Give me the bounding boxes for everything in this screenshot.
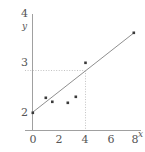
scatter-chart: 4 3 2 y 0 2 4 6 8 x <box>0 0 145 152</box>
data-point <box>67 102 70 105</box>
data-point <box>75 96 78 99</box>
x-axis-label: x <box>138 130 143 139</box>
data-point <box>133 32 136 35</box>
y-tick-label-3: 3 <box>14 57 28 68</box>
x-tick-label-6: 6 <box>104 134 118 145</box>
data-point <box>84 62 87 65</box>
x-tick-label-0: 0 <box>26 134 40 145</box>
y-tick-label-2: 2 <box>14 107 28 118</box>
data-point <box>45 97 48 100</box>
y-axis-label: y <box>22 22 27 31</box>
data-point <box>51 101 54 104</box>
regression-line <box>33 32 135 112</box>
data-point <box>32 112 35 115</box>
x-tick-label-2: 2 <box>52 134 66 145</box>
x-tick-label-4: 4 <box>78 134 92 145</box>
y-tick-label-4: 4 <box>14 8 28 19</box>
